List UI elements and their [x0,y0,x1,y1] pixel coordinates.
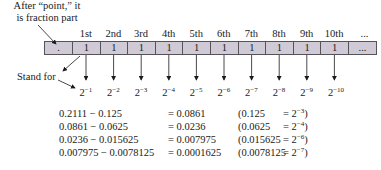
stand-for-label: Stand for [17,71,56,83]
equation-power: = 2−6) [283,133,308,146]
power-base: = 2 [283,147,297,158]
weight-exponent: −10 [333,86,344,94]
equation-expression: 0.0861 − 0.0625 [59,120,128,133]
weight-1: 2−1 [72,84,100,99]
weight-6: 2−6 [210,84,238,99]
paren-close: ) [304,134,308,145]
power-base: = 2 [283,108,297,119]
equation-power: = 2−7) [283,146,308,159]
weight-5: 2−5 [182,84,210,99]
weight-exponent: −5 [195,86,202,94]
equation-expression: 0.007975 − 0.0078125 [59,146,154,159]
weight-exponent: −1 [85,86,92,94]
weight-exponent: −4 [167,86,174,94]
arrow-icons [38,25,334,88]
equation-power: = 2−4) [283,120,308,133]
weight-exponent: −8 [278,86,285,94]
weight-exponent: −6 [223,86,230,94]
paren-close: ) [304,108,308,119]
weight-8: 2−8 [265,84,293,99]
weight-exponent: −2 [112,86,119,94]
stand-for-up-arrow-icon [63,56,80,71]
weight-3: 2−3 [127,84,155,99]
weight-exponent: −3 [140,86,147,94]
weight-2: 2−2 [100,84,128,99]
equation-result: = 0.007975 [168,133,216,146]
power-base: = 2 [283,134,297,145]
equation-paren-value: (0.015625 [238,133,281,146]
equation-expression: 0.0236 − 0.015625 [59,133,138,146]
paren-close: ) [304,147,308,158]
weight-4: 2−4 [155,84,183,99]
equation-paren-value: (0.0078125 [238,146,286,159]
note-arrow-icon [38,25,56,44]
weight-exponent: −9 [305,86,312,94]
equation-paren-value: (0.0625 [238,120,270,133]
weight-exponent: −7 [250,86,257,94]
weight-7: 2−7 [238,84,266,99]
equation-result: = 0.0861 [168,107,205,120]
weight-10: 2−10 [321,84,351,99]
equation-expression: 0.2111 − 0.125 [59,107,122,120]
equation-power: = 2−3) [283,107,308,120]
weight-9: 2−9 [293,84,321,99]
equation-result: = 0.0236 [168,120,205,133]
equation-paren-value: (0.125 [238,107,265,120]
power-base: = 2 [283,121,297,132]
equation-result: = 0.0001625 [168,146,221,159]
paren-close: ) [304,121,308,132]
